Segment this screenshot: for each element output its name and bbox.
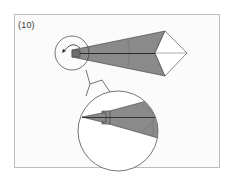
detail-circle-large [78,91,158,171]
magnify-connector [86,70,110,96]
origami-diagram [0,0,237,179]
